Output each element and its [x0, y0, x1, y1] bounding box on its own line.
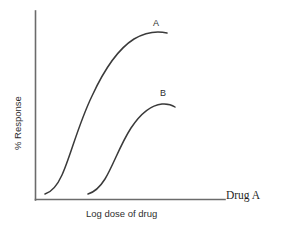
figure-caption: Drug A [226, 189, 261, 202]
y-axis-title: % Response [12, 96, 23, 150]
dose-response-chart: A B % Response Log dose of drug Drug A [0, 0, 289, 226]
curve-label-a: A [153, 18, 159, 28]
curve-series-b [88, 104, 175, 194]
curve-label-b: B [160, 88, 166, 98]
x-axis-title: Log dose of drug [86, 208, 157, 219]
curve-series-a [45, 32, 167, 194]
